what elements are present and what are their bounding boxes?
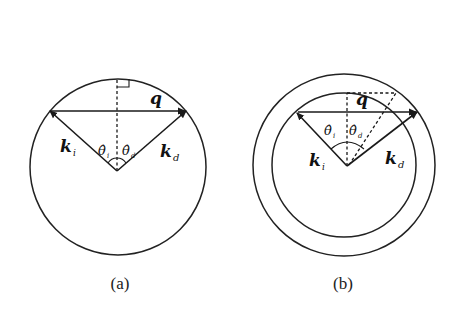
svg-text:θ̂: θ̂ (324, 123, 332, 138)
kd-label: k d (160, 141, 179, 163)
ki-label: k i (60, 136, 76, 158)
svg-text:d: d (173, 152, 179, 163)
q-label: q (150, 88, 162, 108)
svg-text:i: i (107, 152, 109, 160)
panel-a-caption: (a) (111, 274, 130, 293)
svg-text:i: i (333, 132, 335, 140)
svg-text:k: k (309, 150, 321, 170)
scattering-diagram: q k i k d θ̂ i θ̂ d (a) (0, 0, 459, 316)
svg-text:θ̂: θ̂ (349, 123, 357, 138)
svg-text:d: d (398, 159, 404, 170)
theta-i-label: θ̂ i (324, 123, 335, 140)
theta-i-arc (108, 158, 117, 163)
ewald-sphere-circle (30, 79, 206, 255)
theta-d-label: θ̂ d (122, 143, 136, 160)
svg-text:i: i (322, 162, 325, 172)
svg-text:d: d (358, 132, 363, 140)
svg-text:k: k (160, 141, 172, 161)
kd-label: k d (385, 148, 404, 170)
panel-b: q k i k d θ̂ i θ̂ d (b) (253, 74, 435, 293)
panel-a: q k i k d θ̂ i θ̂ d (a) (30, 79, 206, 293)
outer-sphere-circle (253, 74, 435, 256)
svg-text:θ̂: θ̂ (98, 143, 106, 158)
svg-text:k: k (60, 136, 72, 156)
theta-d-arc (117, 158, 126, 163)
theta-i-label: θ̂ i (98, 143, 109, 160)
svg-text:k: k (385, 148, 397, 168)
ki-label: k i (309, 150, 325, 172)
svg-text:i: i (73, 148, 76, 158)
svg-text:θ̂: θ̂ (122, 143, 130, 158)
q-label: q (356, 89, 368, 109)
panel-b-caption: (b) (333, 274, 353, 293)
svg-text:d: d (131, 152, 136, 160)
theta-d-label: θ̂ d (349, 123, 363, 140)
ki-vector-arrow (297, 113, 347, 166)
